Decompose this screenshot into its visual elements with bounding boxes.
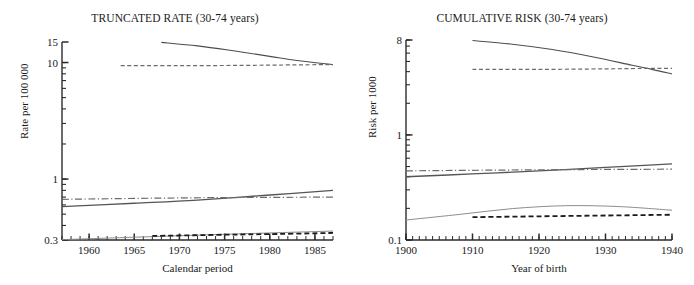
panel-right-x-axis-label: Year of birth [406,262,672,274]
series-line-observed-low [406,206,672,220]
x-axis-tick-label: 1900 [395,244,418,256]
figure-canvas: TRUNCATED RATE (30-74 years) Rate per 10… [0,0,694,285]
y-axis-tick-label: 0.3 [44,234,58,246]
series-line-observed-high [161,42,333,64]
panel-right-title: CUMULATIVE RISK (30-74 years) [350,12,694,24]
panel-left-x-axis-label: Calendar period [62,262,333,274]
x-axis-tick-label: 1920 [528,244,551,256]
panel-truncated-rate: TRUNCATED RATE (30-74 years) Rate per 10… [0,0,350,285]
panel-left-plot-area: 0.311015196019651970197519801985 [0,0,350,285]
series-line-fitted-low [473,215,673,217]
series-line-fitted-high [121,65,333,66]
x-axis-tick-label: 1940 [661,244,684,256]
series-line-fitted-mid [62,197,333,199]
x-axis-tick-label: 1960 [78,244,101,256]
y-axis-tick-label: 10 [47,57,59,69]
x-axis-tick-label: 1910 [462,244,485,256]
panel-right-plot-area: 0.11819001910192019301940 [350,0,694,285]
y-axis-tick-label: 8 [397,34,403,46]
y-axis-tick-label: 15 [47,36,59,48]
x-axis-tick-label: 1980 [259,244,282,256]
y-axis-tick-label: 1 [397,129,403,141]
x-axis-tick-label: 1970 [168,244,191,256]
panel-cumulative-risk: CUMULATIVE RISK (30-74 years) Risk per 1… [350,0,694,285]
panel-left-title: TRUNCATED RATE (30-74 years) [0,12,350,24]
y-axis-tick-label: 1 [53,173,59,185]
x-axis-tick-label: 1975 [214,244,237,256]
x-axis-tick-label: 1930 [595,244,618,256]
x-axis-tick-label: 1985 [304,244,327,256]
x-axis-tick-label: 1965 [123,244,146,256]
series-line-fitted-high [473,68,673,69]
